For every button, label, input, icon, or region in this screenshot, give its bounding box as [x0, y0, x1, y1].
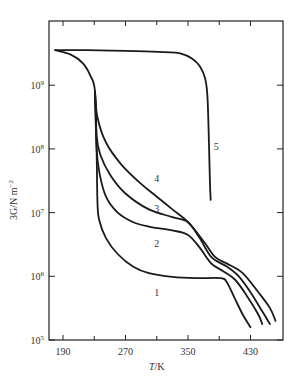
x-tick-label: 190: [56, 346, 71, 357]
y-tick-label: 106: [31, 270, 45, 282]
plot-frame: [49, 21, 283, 340]
curve-label-1: 1: [154, 287, 159, 298]
curve-3: [95, 92, 270, 325]
curve-4: [95, 92, 276, 321]
x-tick-label: 430: [243, 346, 258, 357]
curve-label-5: 5: [214, 141, 219, 152]
chart-canvas: 190270350430 105106107108109 12345 T/K 3…: [0, 0, 299, 386]
curve-1: [55, 50, 250, 327]
y-tick-label: 107: [31, 207, 45, 219]
y-tick-label: 109: [31, 79, 45, 91]
y-tick-label: 105: [31, 334, 45, 346]
x-axis-ticks: 190270350430: [56, 21, 259, 357]
x-tick-label: 270: [118, 346, 133, 357]
curve-label-3: 3: [154, 203, 159, 214]
x-tick-label: 350: [181, 346, 196, 357]
x-axis-title: T/K: [149, 361, 165, 372]
curve-2: [95, 92, 262, 325]
y-axis-title: 3G/N m−2: [7, 180, 19, 220]
curve-label-2: 2: [154, 238, 159, 249]
curve-label-4: 4: [154, 173, 159, 184]
y-tick-label: 108: [31, 143, 45, 155]
data-curves: [55, 50, 275, 327]
